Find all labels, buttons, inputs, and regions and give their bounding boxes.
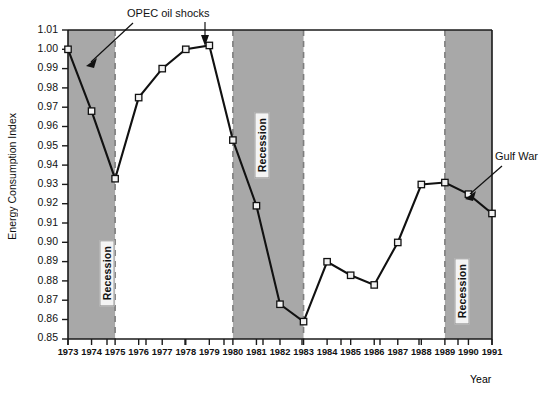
data-point-marker	[395, 239, 401, 245]
data-point-marker	[253, 203, 259, 209]
ytick-label: 0.99	[38, 61, 59, 73]
data-point-marker	[300, 318, 306, 324]
chart-figure: 1.01 1.00 0.99 0.98 0.97 0.96 0.95 0.94 …	[0, 0, 550, 395]
recession-label-1: Recession	[100, 240, 115, 306]
recession-label-3: Recession	[455, 258, 470, 324]
ytick-label: 0.86	[38, 312, 59, 324]
data-point-marker	[135, 94, 141, 100]
ytick-label: 0.92	[38, 196, 59, 208]
ytick-label: 0.97	[38, 100, 59, 112]
data-point-marker	[183, 46, 189, 52]
recession-band-1980-1983	[233, 30, 304, 339]
ytick-label: 1.00	[38, 42, 59, 54]
xtick-label: 1991	[477, 347, 507, 357]
data-point-marker	[371, 282, 377, 288]
ytick-label: 0.90	[38, 235, 59, 247]
data-point-marker	[112, 176, 118, 182]
data-point-marker	[442, 179, 448, 185]
data-point-marker	[418, 181, 424, 187]
ytick-label: 1.01	[38, 23, 59, 35]
data-point-marker	[347, 272, 353, 278]
data-point-marker	[206, 42, 212, 48]
y-axis-tick-labels: 1.01 1.00 0.99 0.98 0.97 0.96 0.95 0.94 …	[38, 23, 59, 344]
ytick-label: 0.98	[38, 81, 59, 93]
annotation-opec-label: OPEC oil shocks	[127, 7, 210, 19]
ytick-label: 0.88	[38, 274, 59, 286]
ytick-label: 0.87	[38, 293, 59, 305]
data-point-marker	[230, 137, 236, 143]
data-point-marker	[159, 65, 165, 71]
data-point-marker	[65, 46, 71, 52]
ytick-label: 0.94	[38, 158, 59, 170]
y-axis-title: Energy Consumption Index	[6, 113, 18, 240]
ytick-label: 0.89	[38, 254, 59, 266]
ytick-label: 0.85	[38, 331, 59, 343]
data-point-marker	[324, 259, 330, 265]
y-axis-ticks	[62, 30, 68, 339]
data-point-marker	[489, 210, 495, 216]
energy-consumption-line-chart: 1.01 1.00 0.99 0.98 0.97 0.96 0.95 0.94 …	[0, 0, 550, 395]
ytick-label: 0.96	[38, 119, 59, 131]
data-point-marker	[88, 108, 94, 114]
ytick-label: 0.95	[38, 139, 59, 151]
x-axis-tick-marks	[68, 339, 492, 345]
annotation-gulf-war-label: Gulf War	[495, 150, 538, 162]
ytick-label: 0.91	[38, 216, 59, 228]
data-point-marker	[277, 301, 283, 307]
ytick-label: 0.93	[38, 177, 59, 189]
recession-label-2: Recession	[255, 112, 270, 178]
x-axis-title: Year	[470, 373, 491, 385]
